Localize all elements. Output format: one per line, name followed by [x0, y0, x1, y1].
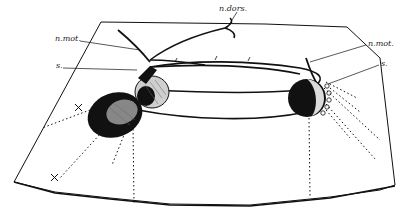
label-n-dors: n.dors.: [219, 5, 247, 13]
motor-nerve-left: [118, 30, 150, 62]
dotted-projections: [42, 82, 380, 203]
dorsal-nerve: [150, 18, 235, 65]
label-leaders: [63, 12, 379, 84]
diagram-drawing: [0, 0, 408, 209]
right-ganglion: [288, 79, 331, 117]
cross-markers: [51, 104, 82, 181]
label-n-mot-left: n.mot.: [55, 35, 81, 43]
label-n-mot-right: n.mot.: [368, 40, 394, 48]
nervous-system-diagram: n.mot. s. n.dors. n.mot. s.: [0, 0, 408, 209]
label-s-left: s.: [56, 62, 63, 70]
tissue-sheet-outline: [14, 22, 395, 206]
label-s-right: s.: [381, 60, 388, 68]
